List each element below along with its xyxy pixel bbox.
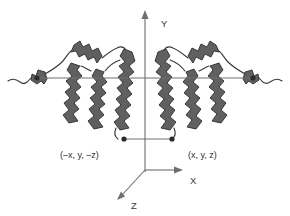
coil-right-interior-2 (199, 66, 209, 71)
lower-left-marker (121, 136, 126, 141)
upper-right-marker (250, 75, 255, 80)
diagram-canvas: Y X Z (–x, y, –z) (x, y, z) (0, 0, 290, 216)
coil-left-bottom (115, 128, 118, 139)
upper-left-marker (34, 75, 39, 80)
lower-right-marker (169, 136, 174, 141)
helix-left-upper (71, 41, 102, 63)
mirrored-coordinate-label: (–x, y, –z) (60, 150, 99, 160)
x-axis-arrowhead (174, 167, 183, 174)
coil-left-interior-1 (105, 60, 120, 71)
z-axis-label: Z (131, 200, 137, 211)
x-axis-label: X (190, 175, 197, 186)
reference-coordinate-label: (x, y, z) (188, 150, 217, 160)
helix-right-right-edge (208, 63, 227, 123)
y-axis-label: Y (161, 18, 168, 29)
structural-diagram-figure: Y X Z (–x, y, –z) (x, y, z) (0, 0, 290, 216)
y-axis-arrowhead (142, 10, 149, 19)
helix-right-upper (188, 41, 219, 63)
protein-structure-left (8, 41, 135, 139)
protein-structure-right (155, 41, 282, 139)
helix-left-left-edge (63, 63, 82, 123)
coil-right-interior-1 (170, 60, 185, 71)
coil-left-interior-2 (81, 66, 91, 71)
z-axis-line (122, 170, 145, 195)
